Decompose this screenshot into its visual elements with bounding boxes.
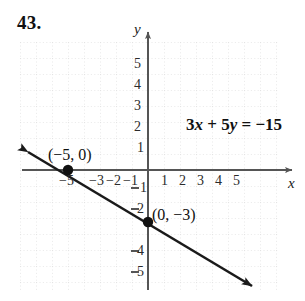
problem-figure: 43. y x 5 4 3 2 1 1 bbox=[0, 0, 305, 301]
x-tick-minus-5: −5 bbox=[59, 174, 74, 188]
y-axis-label: y bbox=[134, 22, 141, 37]
x-tick-1: 1 bbox=[161, 174, 168, 188]
x-tick-minus-2: −2 bbox=[106, 174, 121, 188]
x-tick-minus-1: −1 bbox=[123, 174, 138, 188]
y-tick-4: 4 bbox=[134, 78, 141, 92]
y-tick-minus-4: 4 bbox=[137, 244, 144, 258]
equation-rhs: −15 bbox=[255, 115, 282, 134]
x-tick-3: 3 bbox=[197, 174, 204, 188]
equation-annotation: 3x + 5y = −15 bbox=[186, 115, 282, 135]
y-tick-minus-1: 1 bbox=[140, 181, 147, 195]
y-tick-3: 3 bbox=[134, 99, 141, 113]
x-tick-minus-3: −3 bbox=[89, 174, 104, 188]
y-tick-minus-5: 5 bbox=[137, 265, 144, 279]
equation-coef-y: 5 bbox=[221, 115, 230, 134]
x-axis-label: x bbox=[288, 176, 295, 191]
equation-var-x: x bbox=[195, 115, 204, 134]
x-tick-5: 5 bbox=[233, 174, 240, 188]
coordinate-graph bbox=[0, 0, 305, 301]
equation-plus: + bbox=[203, 115, 221, 134]
y-tick-5: 5 bbox=[134, 57, 141, 71]
point-label-y-intercept: (0, −3) bbox=[152, 207, 196, 223]
y-tick-2: 2 bbox=[134, 120, 141, 134]
y-tick-minus-2: 2 bbox=[137, 202, 144, 216]
point-label-x-intercept: (−5, 0) bbox=[48, 147, 92, 163]
x-tick-4: 4 bbox=[215, 174, 222, 188]
equation-equals: = bbox=[237, 115, 255, 134]
y-tick-1: 1 bbox=[137, 141, 144, 155]
equation-coef-x: 3 bbox=[186, 115, 195, 134]
x-tick-2: 2 bbox=[179, 174, 186, 188]
